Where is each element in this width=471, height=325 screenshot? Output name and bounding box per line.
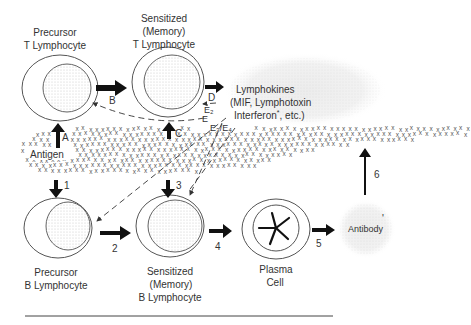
antigen-x-mark: x xyxy=(411,136,415,143)
sensitized-b-label-line2: (Memory) xyxy=(150,279,193,290)
label-3: 3 xyxy=(176,180,182,191)
arrow-1 xyxy=(49,180,63,198)
antigen-x-mark: x xyxy=(306,146,310,153)
arrow-5 xyxy=(312,224,335,236)
antigen-x-mark: x xyxy=(34,140,38,147)
precursor-b-label-line2: B Lymphocyte xyxy=(25,280,88,291)
antigen-x-mark: x xyxy=(22,140,26,147)
antibody-label: Antibody xyxy=(348,224,384,234)
label-6: 6 xyxy=(374,169,380,180)
antigen-x-mark: x xyxy=(64,167,68,174)
antigen-x-mark: x xyxy=(57,167,61,174)
antigen-x-mark: x xyxy=(289,151,293,158)
antigen-x-mark: x xyxy=(261,156,265,163)
sensitized-b-label-line3: B Lymphocyte xyxy=(139,292,202,303)
label-c: C xyxy=(175,128,182,139)
antigen-x-mark: x xyxy=(300,147,304,154)
label-4: 4 xyxy=(215,241,221,252)
antigen-x-mark: x xyxy=(381,136,385,143)
antibody-mark: ' xyxy=(382,213,384,224)
antigen-label: Antigen xyxy=(30,149,64,160)
antigen-x-mark: x xyxy=(445,130,449,137)
plasma-label-line2: Cell xyxy=(266,277,283,288)
sensitized-b-lymphocyte xyxy=(136,195,204,257)
precursor-t-lymphocyte xyxy=(22,55,98,121)
antigen-x-mark: x xyxy=(126,167,130,174)
antigen-x-mark: x xyxy=(164,168,168,175)
label-b: B xyxy=(109,95,116,106)
antigen-x-mark: x xyxy=(89,168,93,175)
precursor-b-lymphocyte xyxy=(24,198,92,258)
antigen-x-mark: x xyxy=(51,167,55,174)
antigen-x-mark: x xyxy=(137,166,141,173)
antigen-x-mark: x xyxy=(387,136,391,143)
label-d: D xyxy=(208,92,215,103)
antigen-region: xxxxxxxxxxxxxxxxxxxxxxxxxxxxxxxxxxxxxxxx… xyxy=(21,124,471,175)
plasma-label-line1: Plasma xyxy=(259,264,293,275)
antigen-x-mark: x xyxy=(467,125,471,132)
label-2: 2 xyxy=(112,243,118,254)
label-5: 5 xyxy=(316,238,322,249)
dashed-e2-to-sensitized-t xyxy=(203,103,216,104)
sensitized-b-label-line1: Sensitized xyxy=(147,266,193,277)
antigen-x-mark: x xyxy=(391,124,395,131)
label-a: A xyxy=(62,132,69,143)
precursor-t-label-line2: T Lymphocyte xyxy=(24,40,87,51)
arrow-2 xyxy=(100,226,131,240)
lymphokines-line3: Interferon*, etc.) xyxy=(234,109,305,121)
immune-response-diagram: xxxxxxxxxxxxxxxxxxxxxxxxxxxxxxxxxxxxxxxx… xyxy=(0,0,471,325)
label-1: 1 xyxy=(64,180,70,191)
arrow-6 xyxy=(359,148,371,195)
arrow-4 xyxy=(209,224,232,238)
antigen-x-mark: x xyxy=(271,151,275,158)
sensitized-t-label-line3: T Lymphocyte xyxy=(133,39,196,50)
antigen-x-mark: x xyxy=(216,162,220,169)
antigen-x-mark: x xyxy=(48,141,52,148)
label-e1: E xyxy=(202,114,208,124)
lymphokines-title: Lymphokines xyxy=(236,84,295,95)
arrow-b xyxy=(96,80,127,96)
antigen-x-mark: x xyxy=(222,162,226,169)
precursor-t-label-line1: Precursor xyxy=(33,27,77,38)
antigen-x-mark: x xyxy=(195,168,199,175)
antigen-x-mark: x xyxy=(294,146,298,153)
antigen-x-mark: x xyxy=(21,147,25,154)
sensitized-t-label-line1: Sensitized xyxy=(141,13,187,24)
plasma-cell xyxy=(242,199,310,259)
label-e34: E₃/E₄ xyxy=(210,123,232,133)
antigen-x-mark: x xyxy=(459,124,463,131)
precursor-b-label-line1: Precursor xyxy=(34,267,78,278)
lymphokines-line2: (MIF, Lymphotoxin xyxy=(230,97,311,108)
antigen-x-mark: x xyxy=(44,166,48,173)
sensitized-t-label-line2: (Memory) xyxy=(143,26,186,37)
sensitized-t-lymphocyte xyxy=(132,47,204,117)
